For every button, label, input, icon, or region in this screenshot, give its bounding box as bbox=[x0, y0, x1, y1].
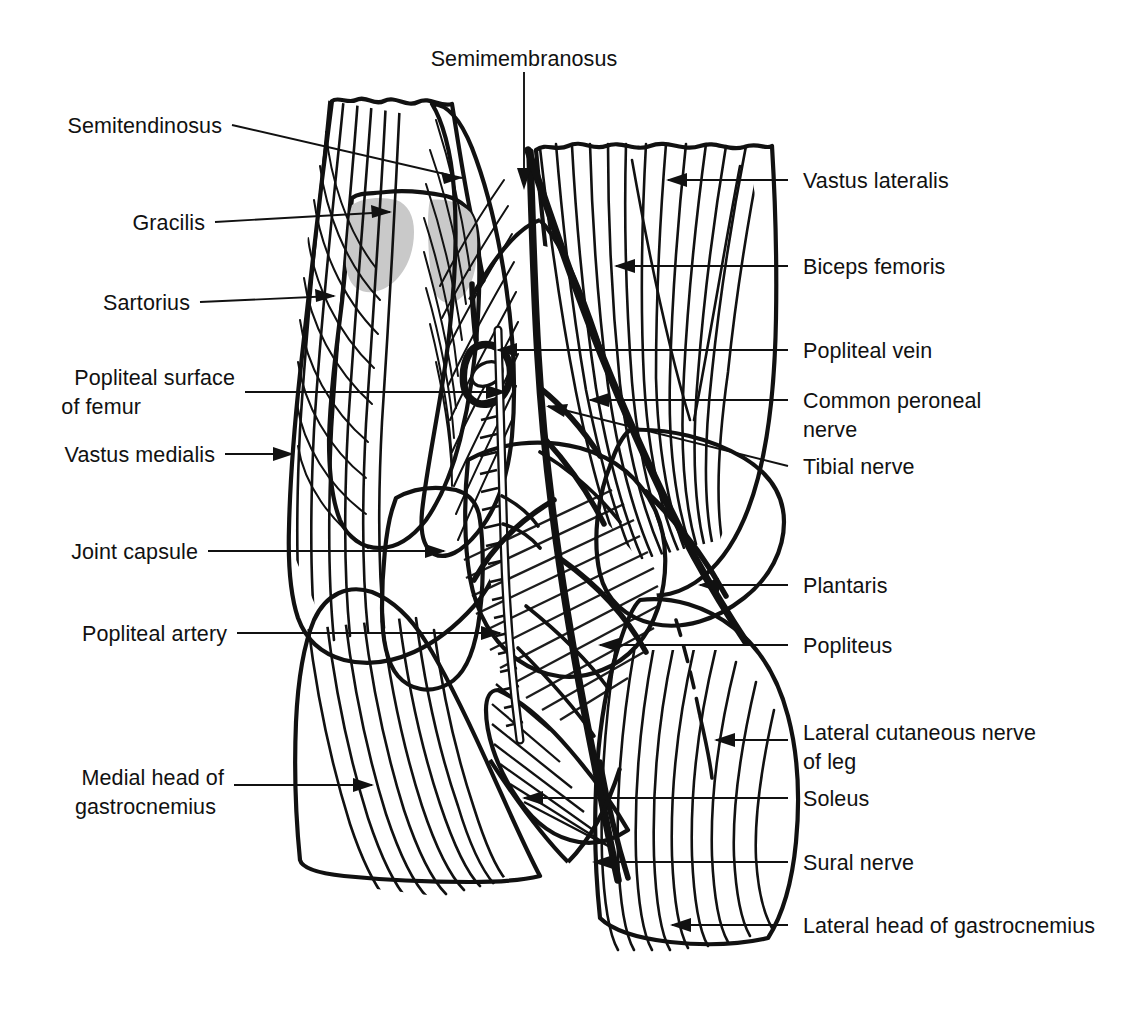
lateral-cutaneous-nerve-of-leg bbox=[676, 620, 712, 778]
label-sartorius: Sartorius bbox=[103, 291, 190, 315]
label-medial-head-line1: Medial head of bbox=[82, 766, 224, 790]
label-popliteal-vein-text: Popliteal vein bbox=[803, 339, 932, 363]
label-lateral-cutaneous-line1: Lateral cutaneous nerve bbox=[803, 721, 1036, 745]
label-soleus: Soleus bbox=[803, 787, 869, 811]
label-biceps-femoris: Biceps femoris bbox=[803, 255, 945, 279]
label-soleus-text: Soleus bbox=[803, 787, 869, 811]
label-medial-head-line2: gastrocnemius bbox=[75, 795, 216, 819]
label-semimembranosus: Semimembranosus bbox=[431, 47, 618, 71]
label-common-peroneal-line2: nerve bbox=[803, 418, 857, 442]
label-semitendinosus-text: Semitendinosus bbox=[68, 114, 222, 138]
label-popliteal-vein: Popliteal vein bbox=[803, 339, 932, 363]
label-common-peroneal-nerve: Common peroneal nerve bbox=[803, 389, 981, 442]
label-gracilis-text: Gracilis bbox=[133, 211, 205, 235]
label-popliteal-surface-line2: of femur bbox=[61, 395, 141, 419]
medial-gastrocnemius-fibres bbox=[308, 606, 506, 906]
label-lateral-head-of-gastrocnemius: Lateral head of gastrocnemius bbox=[803, 914, 1095, 938]
label-semimembranosus-text: Semimembranosus bbox=[431, 47, 618, 71]
label-joint-capsule: Joint capsule bbox=[71, 540, 198, 564]
label-gracilis: Gracilis bbox=[133, 211, 205, 235]
label-popliteal-surface-line1: Popliteal surface bbox=[74, 366, 235, 390]
label-joint-capsule-text: Joint capsule bbox=[71, 540, 198, 564]
label-lateral-cutaneous-line2: of leg bbox=[803, 750, 856, 774]
anatomical-figure-popliteal-fossa: Semimembranosus Semitendinosus Gracilis … bbox=[0, 0, 1134, 1026]
label-sural-nerve-text: Sural nerve bbox=[803, 851, 914, 875]
label-biceps-femoris-text: Biceps femoris bbox=[803, 255, 945, 279]
label-vastus-medialis-text: Vastus medialis bbox=[65, 443, 215, 467]
label-vastus-lateralis-text: Vastus lateralis bbox=[803, 169, 949, 193]
label-sartorius-text: Sartorius bbox=[103, 291, 190, 315]
label-vastus-lateralis: Vastus lateralis bbox=[803, 169, 949, 193]
label-vastus-medialis: Vastus medialis bbox=[65, 443, 215, 467]
label-popliteus: Popliteus bbox=[803, 634, 892, 658]
label-plantaris-text: Plantaris bbox=[803, 574, 888, 598]
label-popliteal-artery-text: Popliteal artery bbox=[82, 622, 227, 646]
label-sural-nerve: Sural nerve bbox=[803, 851, 914, 875]
label-tibial-nerve-text: Tibial nerve bbox=[803, 455, 915, 479]
anatomy-illustration: Semimembranosus Semitendinosus Gracilis … bbox=[0, 0, 1134, 1026]
label-lateral-cutaneous-nerve-of-leg: Lateral cutaneous nerve of leg bbox=[803, 721, 1036, 774]
label-semitendinosus: Semitendinosus bbox=[68, 114, 222, 138]
label-popliteal-artery: Popliteal artery bbox=[82, 622, 227, 646]
label-medial-head-of-gastrocnemius: Medial head of gastrocnemius bbox=[75, 766, 224, 819]
label-lateral-head-text: Lateral head of gastrocnemius bbox=[803, 914, 1095, 938]
label-tibial-nerve: Tibial nerve bbox=[803, 455, 915, 479]
label-plantaris: Plantaris bbox=[803, 574, 888, 598]
label-popliteal-surface-of-femur: Popliteal surface of femur bbox=[61, 366, 235, 419]
label-popliteus-text: Popliteus bbox=[803, 634, 892, 658]
label-common-peroneal-line1: Common peroneal bbox=[803, 389, 981, 413]
